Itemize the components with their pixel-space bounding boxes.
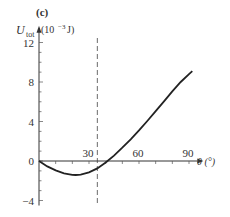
y-tick-label: 4	[29, 116, 35, 128]
svg-text:(10: (10	[41, 24, 54, 36]
axes	[37, 26, 204, 206]
x-tick-label: 90	[183, 147, 195, 159]
x-tick-label: 30	[83, 147, 95, 159]
y-tick-label: 12	[23, 37, 34, 49]
svg-text:J): J)	[67, 24, 74, 36]
x-axis-label: θ (°)	[197, 156, 216, 168]
axis-ticks: −404812306090	[22, 37, 194, 207]
x-tick-label: 60	[133, 147, 145, 159]
y-tick-label: 0	[29, 155, 35, 167]
svg-text:−3: −3	[58, 23, 66, 31]
energy-curve	[39, 71, 192, 175]
y-tick-label: −4	[22, 195, 34, 207]
chart-canvas: (c) U tot (10 −3 J) −404812306090 θ (°)	[0, 0, 230, 217]
y-tick-label: 8	[29, 76, 35, 88]
svg-text:θ (°): θ (°)	[197, 156, 216, 168]
panel-label: (c)	[36, 6, 49, 19]
svg-text:U: U	[16, 23, 26, 37]
